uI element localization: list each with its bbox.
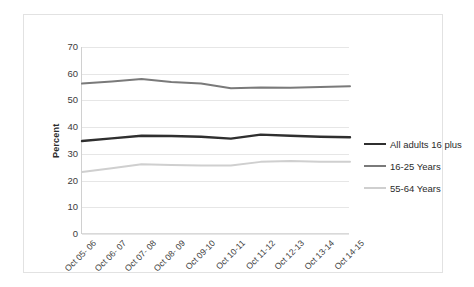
legend-item[interactable]: All adults 16 plus — [364, 133, 464, 155]
series-line — [82, 79, 350, 88]
y-axis-tick-labels: 010203040506070 — [54, 47, 78, 234]
y-axis-tick-label: 60 — [54, 69, 78, 79]
y-axis-tick-label: 20 — [54, 176, 78, 186]
y-axis-tick-label: 70 — [54, 42, 78, 52]
series-line — [82, 161, 350, 172]
legend-item-label: 16-25 Years — [390, 161, 441, 172]
legend-swatch-icon — [364, 187, 386, 189]
y-axis-tick-label: 50 — [54, 95, 78, 105]
y-axis-tick-label: 30 — [54, 149, 78, 159]
legend-swatch-icon — [364, 143, 386, 145]
y-axis-tick-label: 10 — [54, 202, 78, 212]
y-axis-tick-label: 0 — [54, 229, 78, 239]
legend-item[interactable]: 16-25 Years — [364, 155, 464, 177]
legend-swatch-icon — [364, 165, 386, 167]
legend-item-label: All adults 16 plus — [390, 139, 462, 150]
chart-figure-frame: Percent 010203040506070 Oct 05- 06Oct 06… — [23, 14, 443, 273]
legend-item-label: 55-64 Years — [390, 183, 441, 194]
series-lines — [82, 47, 350, 234]
series-line — [82, 135, 350, 141]
plot-area — [81, 47, 349, 234]
chart-legend: All adults 16 plus16-25 Years55-64 Years — [364, 133, 464, 199]
legend-item[interactable]: 55-64 Years — [364, 177, 464, 199]
x-axis-tick-labels: Oct 05- 06Oct 06- 07Oct 07- 08Oct 08- 09… — [81, 234, 349, 287]
y-axis-tick-label: 40 — [54, 122, 78, 132]
